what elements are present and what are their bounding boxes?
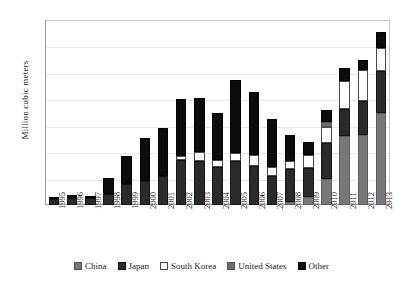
bar-1997[interactable] xyxy=(85,20,96,205)
y-axis-title: Million cubic meters xyxy=(20,20,30,180)
bar-2002[interactable] xyxy=(176,20,187,205)
segment-korea-2006 xyxy=(249,155,260,166)
segment-japan-2012 xyxy=(358,101,369,135)
bar-2000[interactable] xyxy=(140,20,151,205)
x-tick-1999: 1999 xyxy=(131,192,140,209)
segment-other-2006 xyxy=(249,92,260,154)
bar-group xyxy=(45,20,390,205)
segment-other-2010 xyxy=(321,110,332,122)
segment-korea-2011 xyxy=(339,81,350,109)
bar-2012[interactable] xyxy=(358,20,369,205)
x-tick-2002: 2002 xyxy=(185,192,194,209)
legend-item-usa[interactable]: United States xyxy=(227,261,286,271)
bar-2006[interactable] xyxy=(249,20,260,205)
segment-other-2001 xyxy=(158,128,169,176)
x-tick-1996: 1996 xyxy=(76,192,85,209)
x-tick-2008: 2008 xyxy=(294,192,303,209)
segment-korea-2013 xyxy=(376,48,387,70)
bar-2001[interactable] xyxy=(158,20,169,205)
stacked-bar-chart: Million cubic meters 01234567 1995199619… xyxy=(0,0,403,284)
other-swatch xyxy=(298,262,306,270)
segment-other-2011 xyxy=(339,68,350,81)
segment-other-2002 xyxy=(176,99,187,157)
segment-other-2009 xyxy=(303,142,314,155)
segment-korea-2004 xyxy=(212,160,223,167)
segment-other-2000 xyxy=(140,138,151,182)
legend-item-other[interactable]: Other xyxy=(298,261,330,271)
bar-1995[interactable] xyxy=(49,20,60,205)
segment-korea-2010 xyxy=(321,127,332,143)
bar-2009[interactable] xyxy=(303,20,314,205)
x-tick-2003: 2003 xyxy=(203,192,212,209)
united-states-swatch xyxy=(227,262,235,270)
x-tick-2009: 2009 xyxy=(312,192,321,209)
bar-1996[interactable] xyxy=(67,20,78,205)
x-tick-2007: 2007 xyxy=(276,192,285,209)
segment-korea-2007 xyxy=(267,167,278,176)
bar-2008[interactable] xyxy=(285,20,296,205)
bar-2003[interactable] xyxy=(194,20,205,205)
segment-korea-2012 xyxy=(358,70,369,100)
segment-other-1999 xyxy=(121,156,132,184)
legend-item-korea[interactable]: South Korea xyxy=(160,261,216,271)
segment-korea-2005 xyxy=(230,153,241,161)
bar-2007[interactable] xyxy=(267,20,278,205)
china-swatch xyxy=(74,262,82,270)
legend-label: Other xyxy=(309,261,330,271)
bar-2013[interactable] xyxy=(376,20,387,205)
legend-label: South Korea xyxy=(171,261,216,271)
segment-other-2005 xyxy=(230,80,241,153)
x-tick-2001: 2001 xyxy=(167,192,176,209)
x-tick-1997: 1997 xyxy=(94,192,103,209)
x-tick-2006: 2006 xyxy=(258,192,267,209)
bar-2004[interactable] xyxy=(212,20,223,205)
segment-japan-2011 xyxy=(339,109,350,137)
segment-korea-2003 xyxy=(194,152,205,161)
segment-korea-2008 xyxy=(285,161,296,170)
x-tick-2013: 2013 xyxy=(385,192,394,209)
segment-japan-2013 xyxy=(376,71,387,113)
x-tick-2011: 2011 xyxy=(349,192,358,209)
segment-japan-2010 xyxy=(321,143,332,179)
x-tick-2012: 2012 xyxy=(367,192,376,209)
segment-other-2003 xyxy=(194,98,205,152)
legend-label: China xyxy=(85,261,107,271)
bar-1999[interactable] xyxy=(121,20,132,205)
bar-2011[interactable] xyxy=(339,20,350,205)
x-tick-2000: 2000 xyxy=(149,192,158,209)
segment-other-2012 xyxy=(358,60,369,70)
segment-other-2004 xyxy=(212,113,223,160)
segment-other-2008 xyxy=(285,135,296,161)
segment-korea-2009 xyxy=(303,155,314,168)
legend-item-japan[interactable]: Japan xyxy=(118,261,150,271)
chart-legend: ChinaJapanSouth KoreaUnited StatesOther xyxy=(0,261,403,271)
legend-label: United States xyxy=(238,261,286,271)
segment-other-2007 xyxy=(267,119,278,167)
south-korea-swatch xyxy=(160,262,168,270)
segment-other-2013 xyxy=(376,32,387,48)
x-tick-2005: 2005 xyxy=(240,192,249,209)
x-tick-2004: 2004 xyxy=(222,192,231,209)
x-tick-1998: 1998 xyxy=(113,192,122,209)
legend-item-china[interactable]: China xyxy=(74,261,107,271)
japan-swatch xyxy=(118,262,126,270)
legend-label: Japan xyxy=(129,261,150,271)
x-tick-1995: 1995 xyxy=(58,192,67,209)
x-tick-2010: 2010 xyxy=(330,192,339,209)
bar-1998[interactable] xyxy=(103,20,114,205)
bar-2010[interactable] xyxy=(321,20,332,205)
bar-2005[interactable] xyxy=(230,20,241,205)
